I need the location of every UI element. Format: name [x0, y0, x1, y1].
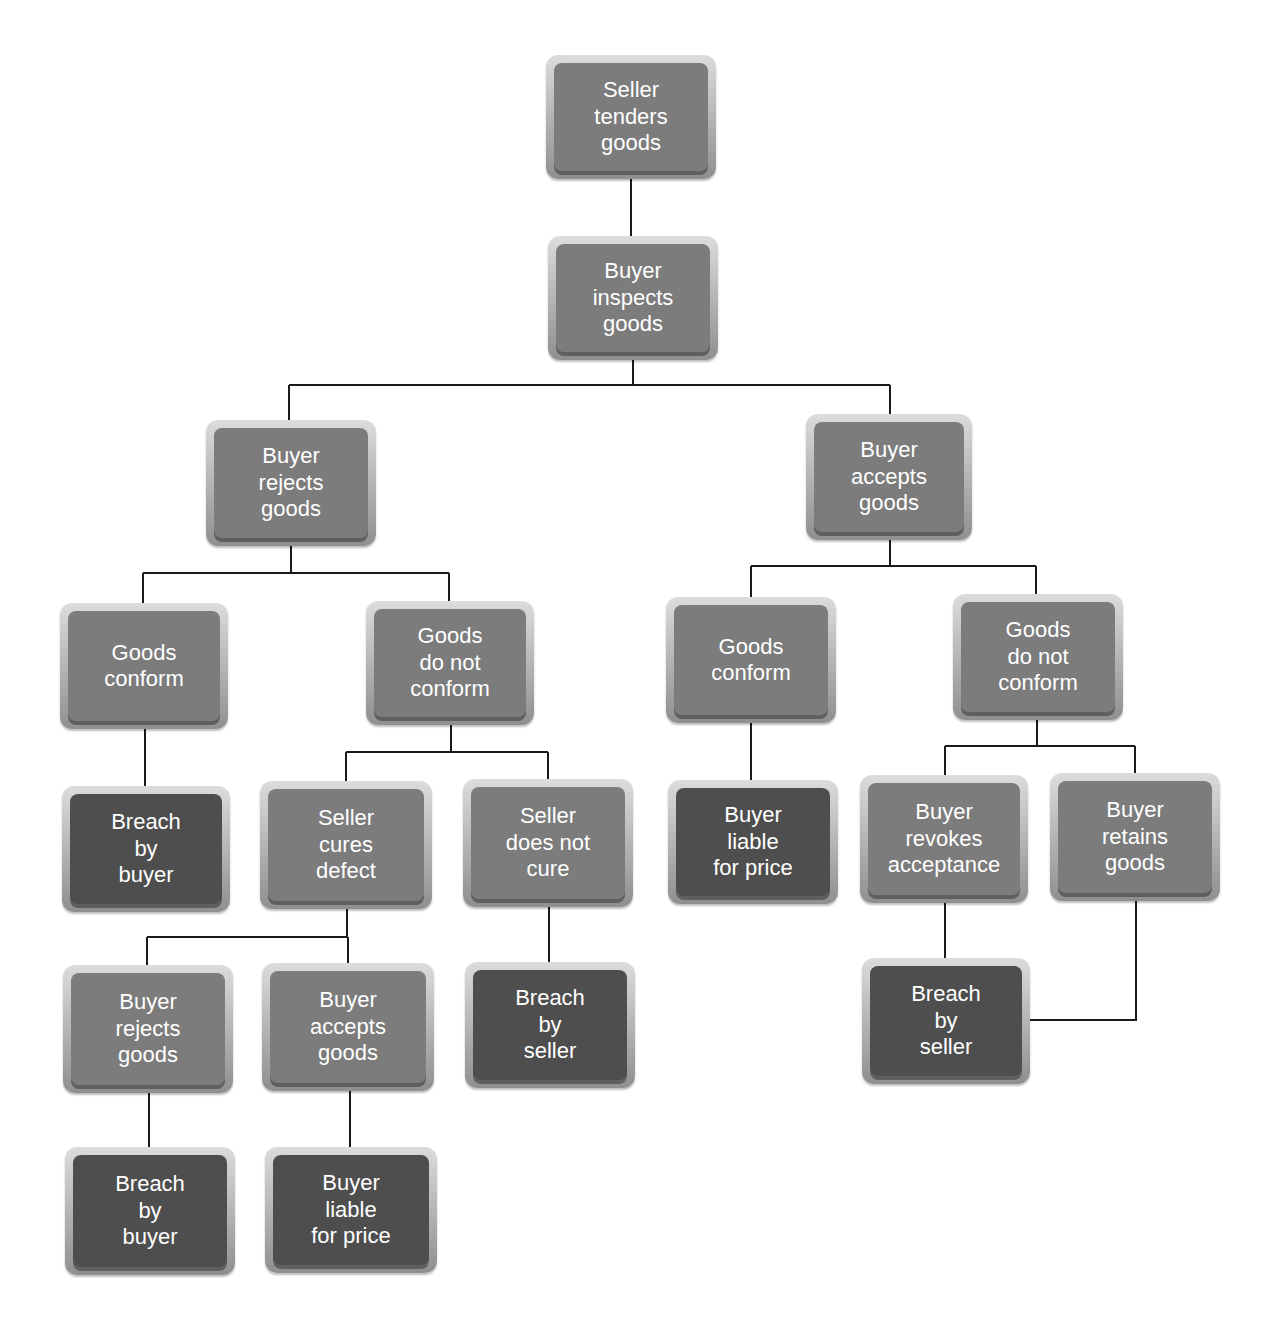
node-face: Goodsconform [68, 611, 220, 721]
node-label-line: Goods [1006, 617, 1071, 644]
node-face: Sellertendersgoods [554, 63, 708, 171]
node-label-line: by [538, 1012, 561, 1039]
node-label-line: seller [920, 1034, 973, 1061]
node-label-line: do not [419, 650, 480, 677]
node-label-line: Breach [115, 1171, 185, 1198]
node-label-line: rejects [259, 470, 324, 497]
node-label-line: for price [713, 855, 792, 882]
node-label-line: goods [118, 1042, 178, 1069]
node-face: Buyerretainsgoods [1058, 781, 1212, 893]
node-label-line: by [134, 836, 157, 863]
node-label-line: conform [410, 676, 489, 703]
node-label-line: revokes [905, 826, 982, 853]
node-label-line: Seller [520, 803, 576, 830]
node-buyer-revokes: Buyerrevokesacceptance [860, 775, 1028, 903]
node-label-line: goods [859, 490, 919, 517]
node-face: Goodsdo notconform [374, 609, 526, 717]
node-face: Breachbybuyer [73, 1155, 227, 1267]
node-face: Buyerliablefor price [676, 788, 830, 896]
node-face: Sellercuresdefect [268, 789, 424, 901]
node-seller-cures: Sellercuresdefect [260, 781, 432, 909]
node-label-line: goods [601, 130, 661, 157]
flowchart-canvas: Sellertendersgoods Buyerinspectsgoods Bu… [0, 0, 1274, 1328]
node-face: Buyeracceptsgoods [814, 422, 964, 532]
node-face: Goodsdo notconform [961, 602, 1115, 712]
node-buyer-inspects: Buyerinspectsgoods [548, 236, 718, 360]
node-label-line: conform [711, 660, 790, 687]
node-label-line: Breach [911, 981, 981, 1008]
node-label-line: goods [1105, 850, 1165, 877]
node-face: Breachbyseller [870, 966, 1022, 1076]
node-buyer-liable-2: Buyerliablefor price [265, 1147, 437, 1273]
node-acc-goods-not-conform: Goodsdo notconform [953, 594, 1123, 720]
node-face: Sellerdoes notcure [471, 787, 625, 899]
node-label-line: Buyer [322, 1170, 379, 1197]
node-label-line: conform [998, 670, 1077, 697]
node-label-line: does not [506, 830, 590, 857]
node-label-line: Buyer [724, 802, 781, 829]
node-label-line: Buyer [119, 989, 176, 1016]
node-label-line: inspects [593, 285, 674, 312]
connector-line [143, 546, 449, 603]
node-label-line: Buyer [319, 987, 376, 1014]
node-label-line: retains [1102, 824, 1168, 851]
node-seller-tenders: Sellertendersgoods [546, 55, 716, 179]
node-label-line: defect [316, 858, 376, 885]
node-label-line: buyer [122, 1224, 177, 1251]
connector-line [751, 540, 1036, 597]
node-label-line: Buyer [604, 258, 661, 285]
node-label-line: seller [524, 1038, 577, 1065]
node-label-line: conform [104, 666, 183, 693]
node-label-line: accepts [851, 464, 927, 491]
node-buyer-accepts: Buyeracceptsgoods [806, 414, 972, 540]
node-face: Buyerliablefor price [273, 1155, 429, 1265]
node-label-line: cure [527, 856, 570, 883]
node-label-line: do not [1007, 644, 1068, 671]
node-cured-buyer-rejects: Buyerrejectsgoods [63, 965, 233, 1093]
node-rej-goods-conform: Goodsconform [60, 603, 228, 729]
node-face: Buyerrejectsgoods [71, 973, 225, 1085]
connector-line [147, 909, 348, 965]
connector-line [945, 720, 1135, 775]
connector-line [346, 725, 548, 781]
node-face: Goodsconform [674, 605, 828, 715]
node-label-line: goods [603, 311, 663, 338]
node-label-line: liable [325, 1197, 376, 1224]
node-seller-not-cure: Sellerdoes notcure [463, 779, 633, 907]
node-breach-by-seller-1: Breachbyseller [465, 962, 635, 1088]
node-label-line: Buyer [915, 799, 972, 826]
node-label-line: cures [319, 832, 373, 859]
node-label-line: Goods [719, 634, 784, 661]
node-label-line: Breach [515, 985, 585, 1012]
node-label-line: Goods [112, 640, 177, 667]
node-label-line: for price [311, 1223, 390, 1250]
node-face: Breachbyseller [473, 970, 627, 1080]
node-face: Buyerrevokesacceptance [868, 783, 1020, 895]
node-label-line: Goods [418, 623, 483, 650]
node-label-line: by [138, 1198, 161, 1225]
node-label-line: Breach [111, 809, 181, 836]
node-breach-by-buyer-2: Breachbybuyer [65, 1147, 235, 1275]
node-acc-goods-conform: Goodsconform [666, 597, 836, 723]
node-label-line: tenders [594, 104, 667, 131]
node-label-line: Seller [603, 77, 659, 104]
node-breach-by-buyer-1: Breachbybuyer [62, 786, 230, 912]
connector-line [289, 360, 890, 420]
node-breach-by-seller-2: Breachbyseller [862, 958, 1030, 1084]
node-rej-goods-not-conform: Goodsdo notconform [366, 601, 534, 725]
connector-line [1030, 901, 1136, 1020]
node-cured-buyer-accepts: Buyeracceptsgoods [262, 963, 434, 1091]
node-label-line: goods [261, 496, 321, 523]
node-label-line: acceptance [888, 852, 1001, 879]
node-label-line: accepts [310, 1014, 386, 1041]
node-label-line: Buyer [1106, 797, 1163, 824]
node-label-line: Buyer [860, 437, 917, 464]
node-label-line: rejects [116, 1016, 181, 1043]
node-label-line: liable [727, 829, 778, 856]
node-face: Buyerinspectsgoods [556, 244, 710, 352]
node-buyer-retains: Buyerretainsgoods [1050, 773, 1220, 901]
node-label-line: Seller [318, 805, 374, 832]
node-label-line: Buyer [262, 443, 319, 470]
node-label-line: by [934, 1008, 957, 1035]
node-buyer-rejects: Buyerrejectsgoods [206, 420, 376, 546]
